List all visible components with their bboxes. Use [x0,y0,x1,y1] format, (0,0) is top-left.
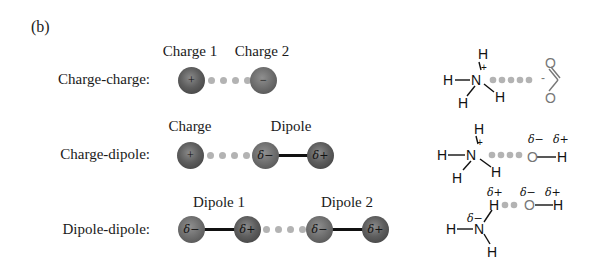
partial-negative-label: δ− [528,133,544,146]
atom-h: H [446,221,456,237]
negative-charge: - [541,71,545,85]
atom-h: H [437,147,447,163]
atom-h: H [474,121,484,137]
partial-positive-label: δ+ [553,133,569,146]
positive-charge: + [477,137,483,148]
atom-h: H [458,95,468,111]
atom-h: H [452,170,462,186]
atom-n: N [466,147,476,163]
atom-h: H [443,72,453,88]
atom-o: O [545,55,556,71]
atom-h: H [553,197,563,213]
atom-n: N [471,72,481,88]
atom-h: H [489,197,499,213]
bond-lines [0,0,591,275]
atom-h: H [557,149,567,165]
atom-o: O [527,149,538,165]
atom-h: H [478,46,488,62]
atom-n: N [474,221,484,237]
atom-o: O [524,197,535,213]
atom-h: H [495,89,505,105]
atom-h: H [491,164,501,180]
atom-h: H [487,244,497,260]
positive-charge: + [481,62,487,73]
atom-o: O [545,90,556,106]
